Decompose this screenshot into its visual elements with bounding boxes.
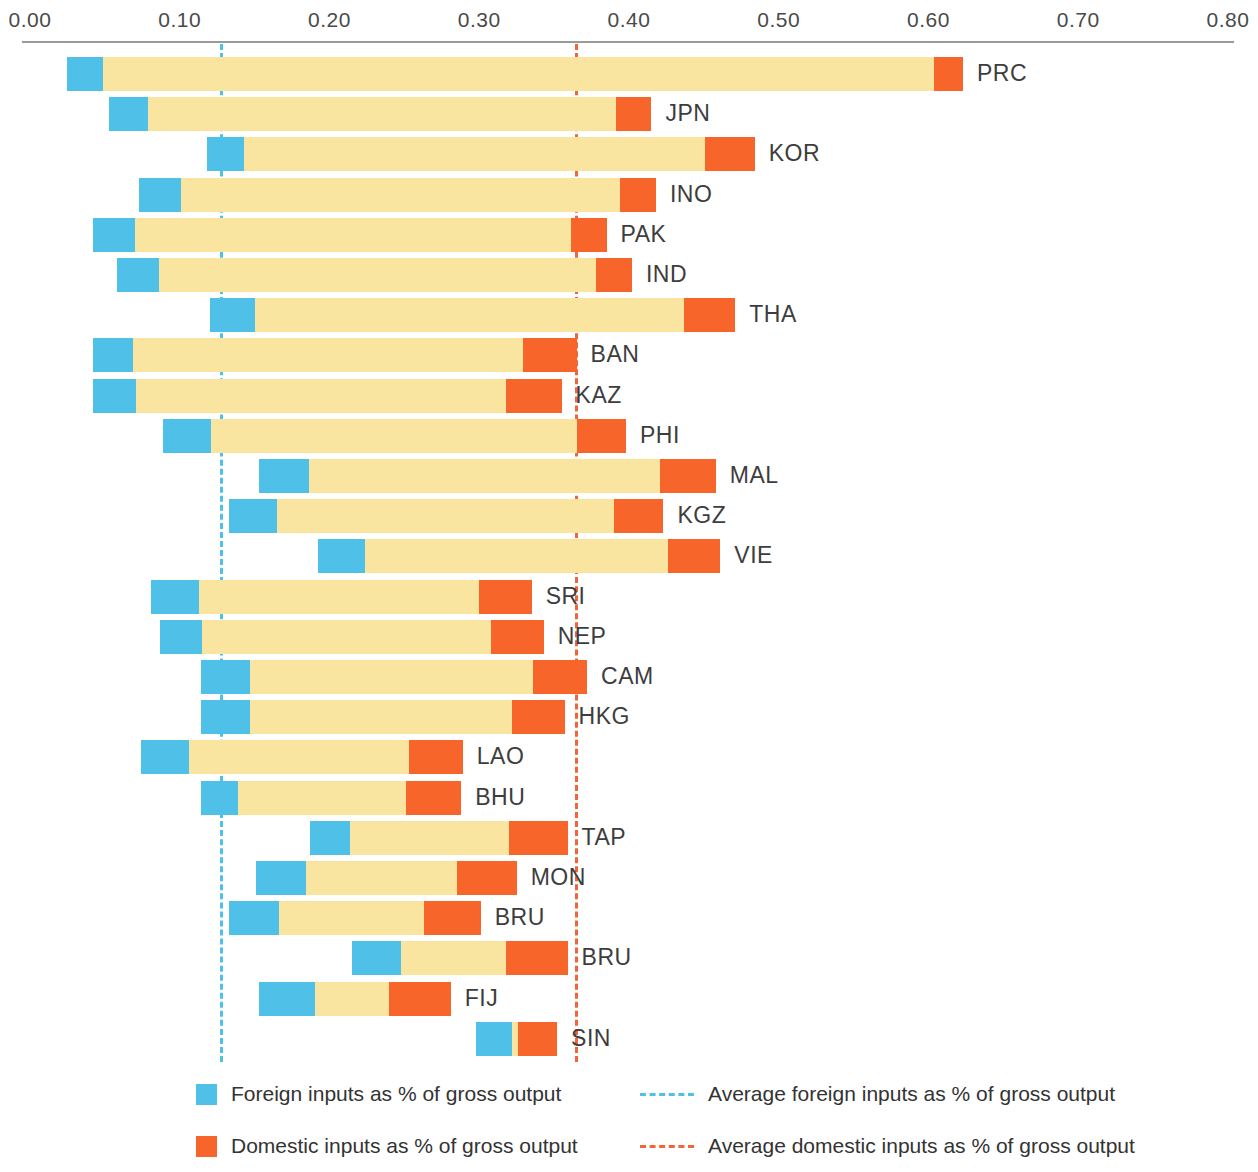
bar-segment-domestic xyxy=(614,499,663,533)
bar-label: PHI xyxy=(640,422,680,449)
x-axis-tick-label: 0.80 xyxy=(1207,8,1250,32)
bar-label: MAL xyxy=(730,462,779,489)
bar-label: TAP xyxy=(582,824,627,851)
legend-swatch-foreign-icon xyxy=(196,1084,217,1105)
bar-segment-middle xyxy=(255,298,685,332)
bar-segment-foreign xyxy=(352,941,401,975)
bar-segment-domestic xyxy=(457,861,517,895)
bar-segment-domestic xyxy=(668,539,720,573)
bar-segment-middle xyxy=(250,660,533,694)
bar-segment-middle xyxy=(309,459,661,493)
bar-segment-foreign xyxy=(117,258,159,292)
bar-segment-middle xyxy=(279,901,424,935)
bar-segment-middle xyxy=(365,539,667,573)
plot-area: PRCJPNKORINOPAKINDTHABANKAZPHIMALKGZVIES… xyxy=(0,44,1258,1064)
bar-segment-middle xyxy=(250,700,512,734)
legend-swatch-domestic-icon xyxy=(196,1136,217,1157)
bar-segment-foreign xyxy=(318,539,366,573)
bar-segment-middle xyxy=(350,821,509,855)
bar-segment-middle xyxy=(159,258,596,292)
bar-label: NEP xyxy=(558,623,607,650)
bar-segment-domestic xyxy=(518,1022,557,1056)
bar-segment-middle xyxy=(103,57,934,91)
bar-segment-domestic xyxy=(389,982,450,1016)
bar-label: BHU xyxy=(475,784,525,811)
bar-segment-middle xyxy=(277,499,614,533)
bar-segment-domestic xyxy=(577,419,626,453)
bar-segment-foreign xyxy=(93,338,133,372)
bar-segment-foreign xyxy=(256,861,305,895)
bar-segment-middle xyxy=(401,941,506,975)
bar-segment-foreign xyxy=(229,499,277,533)
legend-item-foreign-inputs: Foreign inputs as % of gross output xyxy=(196,1082,561,1106)
bar-segment-foreign xyxy=(163,419,211,453)
legend-label-domestic-inputs: Domestic inputs as % of gross output xyxy=(231,1134,578,1158)
bar-label: PAK xyxy=(621,221,667,248)
x-axis-line xyxy=(22,41,1234,43)
x-axis-tick-label: 0.00 xyxy=(9,8,52,32)
bar-label: MON xyxy=(531,864,586,891)
x-axis-tick-label: 0.60 xyxy=(907,8,950,32)
bar-segment-domestic xyxy=(571,218,607,252)
bar-segment-middle xyxy=(148,97,615,131)
bar-label: KGZ xyxy=(677,502,726,529)
x-axis: 0.000.100.200.300.400.500.600.700.80 xyxy=(0,0,1258,44)
bar-label: BRU xyxy=(495,904,545,931)
bar-segment-foreign xyxy=(201,700,250,734)
legend-dashed-line-foreign-icon xyxy=(640,1093,694,1096)
bar-label: BRU xyxy=(582,944,632,971)
bar-segment-middle xyxy=(199,580,479,614)
bar-segment-foreign xyxy=(210,298,255,332)
bar-segment-foreign xyxy=(259,982,314,1016)
bar-segment-foreign xyxy=(476,1022,512,1056)
bar-segment-domestic xyxy=(491,620,543,654)
bar-segment-domestic xyxy=(406,781,461,815)
bar-segment-middle xyxy=(306,861,457,895)
bar-label: KOR xyxy=(769,140,820,167)
bar-label: PRC xyxy=(977,60,1027,87)
bar-label: JPN xyxy=(665,100,710,127)
bar-label: SIN xyxy=(571,1025,611,1052)
bar-segment-foreign xyxy=(310,821,350,855)
bar-label: KAZ xyxy=(576,382,622,409)
bar-segment-domestic xyxy=(523,338,577,372)
bar-segment-foreign xyxy=(67,57,103,91)
bar-label: HKG xyxy=(579,703,630,730)
x-axis-tick-label: 0.10 xyxy=(158,8,201,32)
bar-segment-domestic xyxy=(934,57,962,91)
bar-label: SRI xyxy=(546,583,586,610)
bar-segment-foreign xyxy=(201,781,238,815)
bar-segment-middle xyxy=(211,419,576,453)
bar-segment-domestic xyxy=(506,941,567,975)
chart-legend: Foreign inputs as % of gross output Dome… xyxy=(0,1078,1258,1172)
bar-segment-domestic xyxy=(506,379,561,413)
bar-segment-middle xyxy=(135,218,571,252)
legend-item-domestic-inputs: Domestic inputs as % of gross output xyxy=(196,1134,578,1158)
x-axis-tick-label: 0.70 xyxy=(1057,8,1100,32)
bar-segment-domestic xyxy=(705,137,754,171)
bar-segment-foreign xyxy=(229,901,278,935)
bar-label: THA xyxy=(749,301,797,328)
bar-label: IND xyxy=(646,261,687,288)
bar-segment-domestic xyxy=(684,298,735,332)
bar-segment-middle xyxy=(202,620,491,654)
legend-label-average-foreign: Average foreign inputs as % of gross out… xyxy=(708,1082,1115,1106)
bar-segment-domestic xyxy=(409,740,463,774)
bar-segment-domestic xyxy=(509,821,567,855)
bar-segment-domestic xyxy=(616,97,652,131)
legend-item-average-foreign: Average foreign inputs as % of gross out… xyxy=(640,1082,1115,1106)
bar-segment-foreign xyxy=(139,178,181,212)
bar-segment-foreign xyxy=(259,459,308,493)
bar-segment-middle xyxy=(244,137,705,171)
bar-segment-domestic xyxy=(596,258,632,292)
x-axis-tick-label: 0.50 xyxy=(757,8,800,32)
legend-label-average-domestic: Average domestic inputs as % of gross ou… xyxy=(708,1134,1135,1158)
bar-segment-foreign xyxy=(201,660,250,694)
bar-segment-foreign xyxy=(151,580,199,614)
bar-segment-domestic xyxy=(660,459,715,493)
bar-segment-foreign xyxy=(93,379,136,413)
bar-segment-middle xyxy=(238,781,406,815)
x-axis-tick-label: 0.40 xyxy=(608,8,651,32)
bar-segment-middle xyxy=(189,740,409,774)
legend-item-average-domestic: Average domestic inputs as % of gross ou… xyxy=(640,1134,1135,1158)
